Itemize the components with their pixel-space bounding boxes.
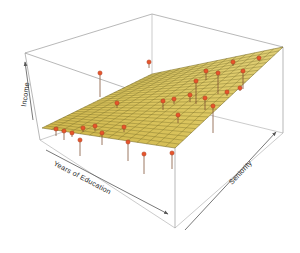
data-point <box>142 152 146 156</box>
data-point <box>225 90 229 94</box>
data-point <box>122 125 126 129</box>
data-point <box>161 99 165 103</box>
data-point <box>216 71 220 75</box>
data-point <box>115 101 119 105</box>
data-point <box>231 60 235 64</box>
data-point <box>241 69 245 73</box>
data-point <box>100 131 104 135</box>
data-point <box>204 69 208 73</box>
data-point <box>98 71 102 75</box>
plot-canvas: Income Years of Education Seniority <box>0 0 300 253</box>
years-of-education-axis-label: Years of Education <box>52 159 113 196</box>
data-point <box>194 79 198 83</box>
data-point <box>78 138 82 142</box>
regression-plane-figure: Income Years of Education Seniority <box>0 0 300 253</box>
data-point <box>147 60 151 64</box>
regression-plane <box>42 47 283 148</box>
data-point <box>176 113 180 117</box>
data-point <box>70 131 74 135</box>
data-point <box>170 151 174 155</box>
seniority-axis-label: Seniority <box>227 158 254 186</box>
data-point <box>62 129 66 133</box>
plane-fill <box>42 47 283 148</box>
years-of-education-axis-line <box>46 150 168 214</box>
data-point <box>188 93 192 97</box>
data-point <box>172 97 176 101</box>
income-axis-label: Income <box>19 81 31 107</box>
data-point <box>211 104 215 108</box>
data-point <box>203 96 207 100</box>
data-point <box>81 126 85 130</box>
data-point <box>238 86 242 90</box>
data-point <box>54 127 58 131</box>
data-point <box>93 124 97 128</box>
data-point <box>257 56 261 60</box>
data-point <box>126 140 130 144</box>
